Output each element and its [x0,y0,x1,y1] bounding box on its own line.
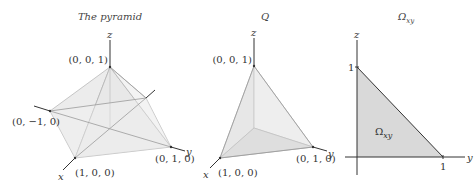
region-label-sub: xy [383,131,393,140]
q-title: Q [261,11,269,22]
pyramid-x-axis [63,158,75,170]
diagram-canvas: The pyramid z (0, 0, 1) (0, −1, 0) (1, 0… [0,0,476,186]
y-axis-label: y [185,146,192,157]
q-y-axis [313,147,327,151]
horizontal-axis-label: y [466,152,473,163]
omega-title: Ωxy [397,11,415,25]
vertex-dot [312,146,314,148]
region-label-main: Ω [375,126,383,137]
vertex-label-front: (1, 0, 0) [218,167,258,178]
vertex-label-top: (0, 0, 1) [212,54,252,65]
vertical-tick-label: 1 [348,62,354,73]
pyramid-y-axis [171,147,185,151]
vertex-dot [219,157,221,159]
x-axis-label: x [203,169,209,180]
pyramid-title: The pyramid [78,11,142,22]
vertex-dot [109,66,111,68]
pyramid-neg-x-axis [146,90,155,98]
vertex-dot [170,146,172,148]
horizontal-tick-label: 1 [440,161,446,172]
face-slanted [220,66,313,158]
vertex-dot [253,65,255,67]
vertex-label-top: (0, 0, 1) [68,54,108,65]
vertex-label-left: (0, −1, 0) [12,116,60,127]
vertical-axis-label: z [353,29,360,40]
vertex-label-front: (1, 0, 0) [75,167,115,178]
z-axis-label: z [250,27,257,38]
pyramid-neg-y-axis [34,106,50,111]
omega-panel: Ωxy z 1 1 y Ωxy [345,11,473,175]
omega-title-main: Ω [397,11,406,22]
y-axis-label: y [327,148,334,159]
vertex-dot [49,110,51,112]
vertex-dot [74,157,76,159]
pyramid-panel: The pyramid z (0, 0, 1) (0, −1, 0) (1, 0… [12,11,195,182]
q-panel: Q z (0, 0, 1) (1, 0, 0) (0, 1, 0) x y [203,11,336,180]
omega-title-sub: xy [406,17,415,25]
x-axis-label: x [58,171,64,182]
z-axis-label: z [106,29,113,40]
